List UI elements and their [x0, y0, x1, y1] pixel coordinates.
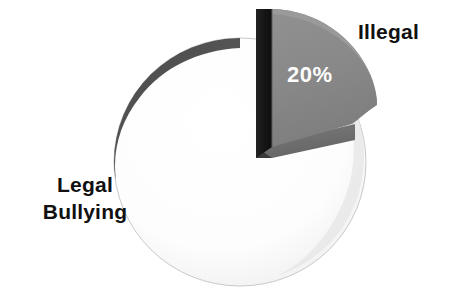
- slice-label-legal-bullying-line-1: Legal: [30, 172, 140, 199]
- slice-label-illegal: Illegal: [358, 20, 419, 44]
- slice-label-legal-bullying: Legal Bullying: [30, 172, 140, 226]
- pie-chart-figure: Illegal Legal Bullying 20%: [0, 0, 458, 288]
- slice-value-illegal: 20%: [287, 62, 333, 88]
- slice-label-legal-bullying-line-2: Bullying: [30, 199, 140, 226]
- pie-slice-illegal-side-face: [256, 9, 272, 158]
